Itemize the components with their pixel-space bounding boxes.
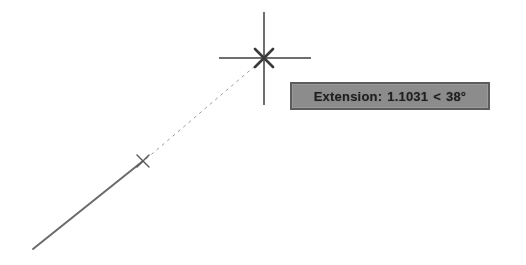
drawing-canvas[interactable]: Extension:1.1031<38° (0, 0, 526, 265)
tooltip-label: Extension: (314, 89, 382, 104)
extension-tracking-line (146, 60, 262, 159)
endpoint-snap-marker (137, 155, 149, 167)
tooltip-angle-value: 38° (446, 89, 466, 104)
extension-snap-tooltip-text: Extension:1.1031<38° (314, 89, 467, 104)
drawing-svg (0, 0, 526, 265)
existing-line-segment[interactable] (33, 161, 143, 249)
extension-snap-tooltip: Extension:1.1031<38° (290, 82, 490, 110)
tooltip-distance-value: 1.1031 (387, 89, 428, 104)
tooltip-separator: < (433, 89, 441, 104)
